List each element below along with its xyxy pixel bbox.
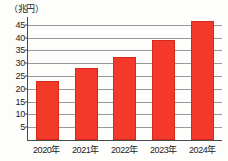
bars-group (28, 17, 222, 140)
bar-slot (28, 17, 67, 140)
y-axis-tick-label: 40 (15, 33, 25, 43)
bar-slot (144, 17, 183, 140)
y-axis-tick-label: 25 (15, 71, 25, 81)
bar (75, 68, 98, 140)
y-axis-tick-label: 35 (15, 45, 25, 55)
x-axis-tick-label: 2022年 (105, 143, 144, 156)
bar (36, 81, 59, 140)
bar-chart: （兆円） 51015202530354045 2020年2021年2022年20… (0, 0, 228, 161)
y-axis-tick-label: 45 (15, 20, 25, 30)
x-axis-tick-label: 2020年 (27, 143, 66, 156)
bar (113, 57, 136, 140)
x-axis-tick-label: 2023年 (144, 143, 183, 156)
bar-slot (67, 17, 106, 140)
y-axis-unit-label: （兆円） (9, 2, 44, 15)
y-axis-tick-label: 5 (20, 122, 25, 132)
bar (152, 40, 175, 140)
x-axis-labels: 2020年2021年2022年2023年2024年 (27, 143, 222, 156)
y-axis-tick-label: 20 (15, 84, 25, 94)
y-axis-tick-label: 10 (15, 109, 25, 119)
y-axis-tick-label: 30 (15, 58, 25, 68)
bar (191, 21, 214, 140)
bar-slot (183, 17, 222, 140)
y-axis-tick-label: 15 (15, 97, 25, 107)
plot-area: 51015202530354045 (27, 17, 222, 141)
x-axis-tick-label: 2024年 (183, 143, 222, 156)
x-axis-tick-label: 2021年 (66, 143, 105, 156)
bar-slot (106, 17, 145, 140)
